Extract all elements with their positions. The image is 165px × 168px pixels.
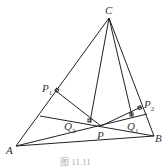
triangle-diagram: [0, 0, 165, 168]
label-c: C: [105, 5, 112, 16]
label-q1: Q1: [127, 121, 138, 135]
right-angle-mark-q2: [88, 119, 91, 122]
label-p2: P2: [144, 99, 154, 113]
segment-cq1: [109, 18, 132, 116]
label-p1: P1: [42, 83, 52, 97]
label-b: B: [155, 133, 162, 144]
label-q2: Q2: [64, 121, 75, 135]
segment-cq2: [90, 18, 109, 122]
label-p: P: [97, 130, 104, 141]
figure-caption: 图 11.11: [60, 155, 91, 168]
geometry-figure: C A B P P1 P2 Q1 Q2 图 11.11: [0, 0, 165, 168]
label-a: A: [6, 145, 13, 156]
